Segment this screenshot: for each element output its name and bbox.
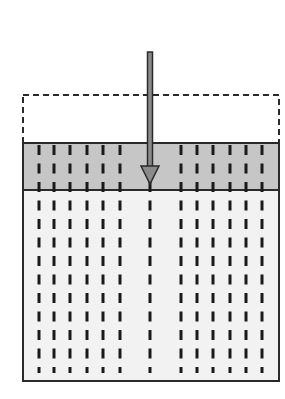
diagram-canvas bbox=[0, 0, 285, 399]
arrow-shaft bbox=[148, 52, 153, 168]
compression-diagram bbox=[0, 0, 285, 399]
